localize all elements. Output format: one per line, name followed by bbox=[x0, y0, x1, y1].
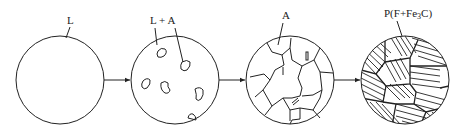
liquid-circle bbox=[16, 36, 104, 124]
pearlite-leader-line bbox=[397, 21, 402, 36]
liquid-leader-line bbox=[155, 28, 157, 45]
austenite-label: A bbox=[282, 9, 290, 21]
pearlite-label: P(F+Fe3C) bbox=[384, 7, 432, 21]
austenite-leader-line bbox=[278, 23, 283, 45]
stage-liquid: L bbox=[16, 14, 104, 124]
stage-austenite: A bbox=[246, 9, 334, 124]
austenite-leader-line bbox=[175, 28, 183, 62]
liquid-label: L bbox=[67, 14, 74, 26]
austenite-nuclei bbox=[142, 48, 204, 120]
solidification-diagram: L L + A A bbox=[0, 0, 463, 137]
liquid-austenite-label: L + A bbox=[150, 14, 175, 26]
stage-liquid-austenite: L + A bbox=[131, 14, 219, 124]
pearlite-circle bbox=[361, 36, 449, 124]
stage-pearlite: P(F+Fe3C) bbox=[361, 7, 450, 128]
